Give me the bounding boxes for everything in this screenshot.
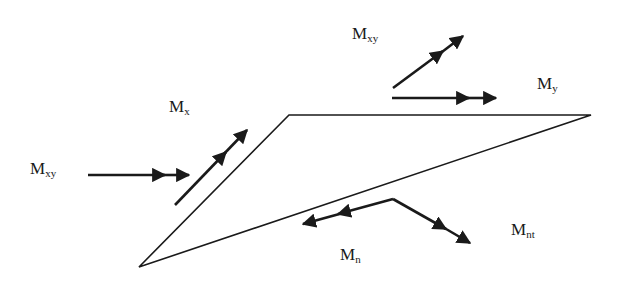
- diagram-canvas: Mxy Mx Mxy My Mn Mnt: [0, 0, 627, 282]
- mn-double-arrow-icon: [303, 199, 393, 224]
- label-mx: Mx: [169, 98, 190, 115]
- label-my-sub: y: [552, 82, 558, 94]
- label-mnt: Mnt: [511, 221, 535, 238]
- label-mn-main: M: [340, 245, 355, 264]
- triangular-element: [139, 115, 591, 267]
- label-mn-sub: n: [355, 253, 361, 265]
- label-mn: Mn: [340, 246, 361, 263]
- label-mxy-left-main: M: [30, 159, 45, 178]
- label-mxy-top-sub: xy: [367, 32, 378, 44]
- label-mxy-left: Mxy: [30, 160, 56, 177]
- label-mx-main: M: [169, 97, 184, 116]
- label-my-main: M: [537, 74, 552, 93]
- label-my: My: [537, 75, 558, 92]
- mnt-double-arrow-icon: [393, 199, 470, 243]
- label-mxy-top-main: M: [352, 24, 367, 43]
- label-mnt-sub: nt: [526, 228, 535, 240]
- label-mxy-left-sub: xy: [45, 167, 56, 179]
- label-mnt-main: M: [511, 220, 526, 239]
- mxy-top-double-arrow-icon: [393, 36, 463, 88]
- label-mx-sub: x: [184, 105, 190, 117]
- label-mxy-top: Mxy: [352, 25, 378, 42]
